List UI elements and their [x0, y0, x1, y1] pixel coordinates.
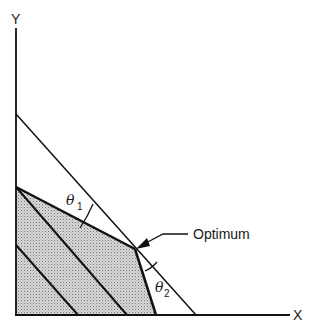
optimum-arrow-icon: [136, 238, 150, 249]
optimum-leader-line: [144, 234, 188, 244]
theta1-symbol: θ: [66, 192, 75, 208]
x-axis-label: X: [293, 307, 303, 323]
y-axis-label: Y: [11, 11, 21, 27]
optimum-label: Optimum: [193, 226, 250, 242]
lp-diagram: Y X θ 1 θ 2 Optimum: [0, 0, 316, 335]
theta2-symbol: θ: [155, 279, 164, 295]
theta2-subscript: 2: [164, 288, 170, 299]
theta1-subscript: 1: [77, 201, 83, 212]
